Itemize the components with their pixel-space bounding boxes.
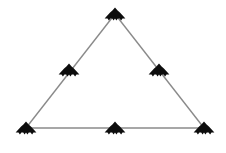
stealth-aircraft-icon-top-vertex <box>105 8 126 21</box>
stealth-aircraft-icon-right-edge-midpoint <box>149 64 170 77</box>
triangle-edges <box>26 14 204 128</box>
stealth-aircraft-icon-left-edge-midpoint <box>59 64 80 77</box>
diagram-canvas <box>0 0 226 153</box>
aircraft-nodes <box>16 8 215 135</box>
triangle-formation-diagram <box>0 0 226 153</box>
